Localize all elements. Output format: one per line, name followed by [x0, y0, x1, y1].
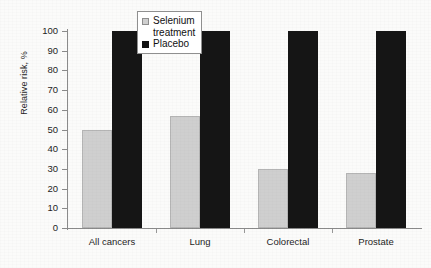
y-tick-label: 100	[22, 25, 58, 36]
bar-placebo-all-cancers	[112, 31, 142, 228]
x-category-label: Colorectal	[244, 236, 332, 247]
y-tick-label: 10	[22, 202, 58, 213]
y-tick-label: 60	[22, 104, 58, 115]
bar-placebo-colorectal	[288, 31, 318, 228]
chart-legend: Selenium treatment Placebo	[137, 11, 202, 54]
y-tick-label: 20	[22, 183, 58, 194]
legend-label-selenium: Selenium treatment	[153, 15, 195, 38]
x-category-label: Lung	[156, 236, 244, 247]
plot-area	[68, 31, 420, 228]
x-category-label: All cancers	[68, 236, 156, 247]
legend-item-placebo: Placebo	[142, 38, 195, 50]
x-separator-tick	[156, 229, 157, 233]
y-tick-label: 80	[22, 64, 58, 75]
legend-label-placebo: Placebo	[153, 38, 189, 50]
y-tick	[62, 228, 68, 229]
bar-chart: Relative risk, % 0102030405060708090100 …	[0, 0, 431, 268]
bar-placebo-prostate	[376, 31, 406, 228]
y-tick-label: 0	[22, 222, 58, 233]
placebo-swatch-icon	[142, 41, 149, 48]
bar-selenium-colorectal	[258, 169, 288, 228]
legend-item-selenium: Selenium treatment	[142, 15, 195, 38]
y-tick-label: 90	[22, 45, 58, 56]
selenium-swatch-icon	[142, 18, 149, 25]
y-tick-label: 40	[22, 143, 58, 154]
bar-selenium-all-cancers	[82, 130, 112, 229]
x-separator-tick	[332, 229, 333, 233]
x-category-label: Prostate	[332, 236, 420, 247]
bar-selenium-prostate	[346, 173, 376, 228]
bar-placebo-lung	[200, 31, 230, 228]
bar-selenium-lung	[170, 116, 200, 228]
y-tick-label: 70	[22, 84, 58, 95]
x-separator-tick	[244, 229, 245, 233]
y-tick-label: 50	[22, 124, 58, 135]
y-tick-label: 30	[22, 163, 58, 174]
